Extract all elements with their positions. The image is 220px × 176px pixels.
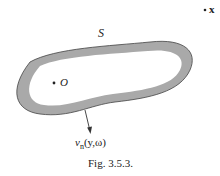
- point-x-label: x: [209, 3, 215, 15]
- velocity-args: (y,ω): [84, 136, 106, 148]
- arrowhead-icon: [87, 127, 92, 135]
- origin-label: O: [60, 76, 68, 88]
- origin-dot: [53, 82, 56, 85]
- surface-label-s: S: [98, 26, 104, 41]
- normal-velocity-label: vn(y,ω): [75, 136, 106, 151]
- point-x-dot: [204, 9, 207, 12]
- figure-caption: Fig. 3.5.3.: [88, 157, 133, 169]
- diagram-canvas: [0, 0, 220, 176]
